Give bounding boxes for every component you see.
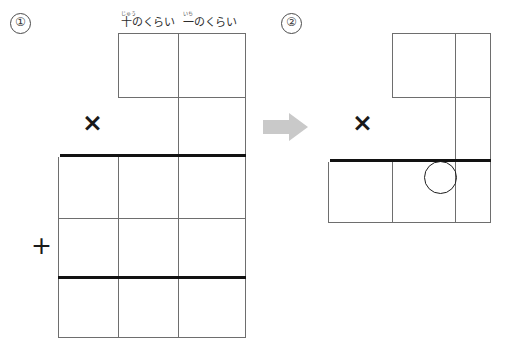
place-label-tens: じゅう 十のくらい [118,10,178,29]
right-grid-line-v-r3l [328,162,329,222]
right-grid-line-v-r2r [490,97,491,160]
left-grid-line-v-r1l [118,33,119,97]
right-grid-line-h-r3b [328,222,491,223]
right-grid-line-v-r3a [392,162,393,222]
left-grid-line-v-r1r [245,33,246,97]
left-grid-line-v-r4a [118,218,119,277]
left-grid-line-h-top [118,33,246,34]
right-grid-line-v-r1m [455,33,456,97]
left-grid-line-h-r5b [58,337,246,338]
arrow-right-icon [263,112,309,142]
step-marker-1: ① [10,13,31,34]
left-grid-line-v-r4b [178,218,179,277]
left-rule-line-1 [60,154,246,157]
right-grid-line-h-top [392,33,491,34]
left-grid-line-v-r4l [58,218,59,277]
right-grid-line-h-r1b [392,97,491,98]
plus-operator-left: + [31,233,52,258]
right-rule-line [330,159,491,162]
left-grid-line-h-r3b [58,218,246,219]
left-grid-line-v-r3r [245,157,246,218]
right-grid-line-v-r2l [455,97,456,160]
right-grid-line-v-r3r [490,162,491,222]
left-grid-line-v-r3b2 [178,157,179,218]
place-label-ones-base: 一のくらい [180,16,240,29]
left-grid-line-v-r3a [118,157,119,218]
left-rule-line-2 [58,276,246,279]
transition-arrow [263,112,309,142]
left-grid-line-v-r5a [118,279,119,337]
left-grid-line-v-r5l [58,279,59,337]
left-grid-line-v-r5r [245,279,246,337]
place-label-tens-base: 十のくらい [118,16,178,29]
step-marker-2: ② [281,13,302,34]
left-grid-line-v-r5b [178,279,179,337]
circled-cell-highlight [424,161,457,194]
right-grid-line-v-r1r [490,33,491,97]
multiply-operator-left: × [82,110,103,135]
left-grid-line-v-r2r [245,97,246,155]
worksheet-canvas: ① ② じゅう 十のくらい いち 一のくらい × + [0,0,518,358]
left-grid-line-v-r1m [178,33,179,97]
place-label-ones: いち 一のくらい [180,10,240,29]
left-grid-line-v-r3l [58,157,59,218]
left-grid-line-v-r4r [245,218,246,277]
multiply-operator-right: × [352,110,373,135]
right-grid-line-v-r1l [392,33,393,97]
left-grid-line-h-r1b [118,97,246,98]
left-grid-line-v-r2l [178,97,179,155]
